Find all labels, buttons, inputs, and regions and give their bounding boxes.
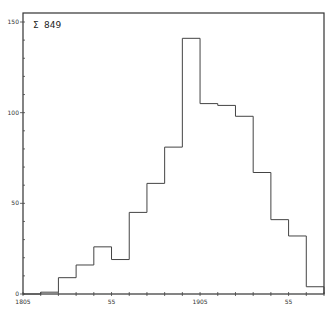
y-tick-label: 100 <box>8 109 20 116</box>
x-tick-label: 55 <box>285 298 293 305</box>
x-tick-label: 1905 <box>192 298 207 305</box>
plot-frame <box>23 13 324 294</box>
x-tick-label: 55 <box>108 298 116 305</box>
y-tick-label: 50 <box>11 199 19 206</box>
histogram-chart: 050100150 180555190555 Σ 849 <box>0 0 332 309</box>
title-text: 849 <box>44 20 61 30</box>
y-axis: 050100150 <box>8 18 25 297</box>
y-tick-label: 150 <box>8 18 20 25</box>
title-symbol: Σ <box>33 20 39 30</box>
chart-title: Σ 849 <box>33 20 61 30</box>
histogram-steps <box>23 38 324 294</box>
plot-border <box>23 13 324 294</box>
y-tick-label: 0 <box>15 290 19 297</box>
x-tick-label: 1805 <box>15 298 30 305</box>
